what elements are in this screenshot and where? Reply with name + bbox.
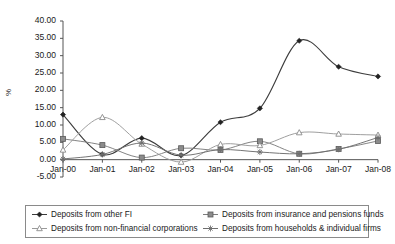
data-point-marker-filled-diamond [37,212,42,217]
data-point-marker-cross [257,149,263,155]
data-point-marker-cross [178,152,184,158]
series-line [60,38,380,158]
data-point-marker-filled-diamond [375,74,380,79]
legend-item[interactable]: Deposits from insurance and pensions fun… [202,210,384,219]
data-point-marker-filled-square [139,155,144,160]
data-point-marker-filled-square [179,146,184,151]
legend-item-label: Deposits from non-financial corporations [51,224,198,233]
data-point-marker-cross [208,226,214,232]
line-chart: % 40.0035.0030.0025.0020.0015.0010.005.0… [0,0,395,244]
legend-item-label: Deposits from other FI [51,210,132,219]
data-point-marker-filled-square [61,136,66,141]
data-point-marker-cross [99,151,105,157]
legend-marker-cross [202,224,219,233]
legend-item[interactable]: Deposits from other FI [31,210,132,219]
data-point-marker-filled-diamond [139,136,144,141]
axes [63,21,378,177]
chart-legend: Deposits from other FIDeposits from insu… [25,205,369,238]
tick-marks [60,21,378,177]
legend-item[interactable]: Deposits from non-financial corporations [31,224,198,233]
data-point-marker-cross [60,156,66,162]
data-point-marker-filled-square [208,212,213,217]
data-point-marker-filled-square [100,143,105,148]
legend-marker-open-triangle [31,224,48,233]
legend-item-label: Deposits from households & individual fi… [222,224,381,233]
data-point-marker-filled-diamond [336,64,341,69]
legend-marker-filled-square [202,210,219,219]
legend-item[interactable]: Deposits from households & individual fi… [202,224,381,233]
legend-marker-filled-diamond [31,210,48,219]
series-line [60,134,381,161]
legend-item-label: Deposits from insurance and pensions fun… [222,210,384,219]
